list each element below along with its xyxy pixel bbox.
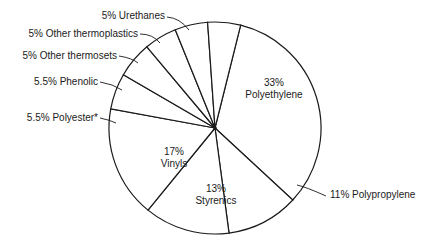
slice-label: 5.5% Polyester* <box>27 112 98 123</box>
slice-label: 5% Other thermosets <box>23 50 117 61</box>
pie-chart: 33%Polyethylene11% Polypropylene13%Styre… <box>0 0 434 243</box>
pie-center-dot <box>213 126 217 130</box>
slice-label: 5.5% Phenolic <box>34 76 98 87</box>
slice-label: 17%Vinyls <box>161 146 188 169</box>
slice-label: 11% Polypropylene <box>330 189 416 200</box>
slice-label: 5% Urethanes <box>102 10 165 21</box>
slice-label: 5% Other thermoplastics <box>29 28 139 39</box>
